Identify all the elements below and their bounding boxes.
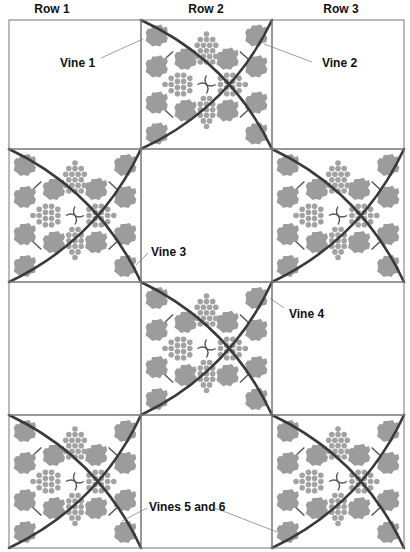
grape xyxy=(243,346,249,352)
grape xyxy=(318,485,324,491)
grape xyxy=(78,166,84,172)
grape xyxy=(341,244,347,250)
grape xyxy=(329,432,335,438)
grape xyxy=(86,213,92,219)
grape xyxy=(341,432,347,438)
grape xyxy=(338,171,344,177)
grape xyxy=(335,521,341,527)
grape xyxy=(92,469,98,475)
grape-leaf-icon xyxy=(146,55,168,77)
grape xyxy=(210,59,216,65)
grape xyxy=(49,222,55,228)
grape xyxy=(355,469,361,475)
grape xyxy=(69,515,75,521)
grape xyxy=(66,177,72,183)
grape xyxy=(181,85,187,91)
grape-leaf-icon xyxy=(277,186,299,208)
grape xyxy=(312,203,318,209)
leader-vine-3 xyxy=(136,253,148,265)
grape xyxy=(198,310,204,316)
grape xyxy=(187,88,193,94)
grape xyxy=(299,479,305,485)
grape xyxy=(207,118,213,124)
tendril xyxy=(66,480,75,482)
grape xyxy=(201,360,207,366)
grape xyxy=(78,188,84,194)
grape xyxy=(72,521,78,527)
grid-cell xyxy=(9,20,141,149)
grape xyxy=(82,449,88,455)
grape xyxy=(175,85,181,91)
grape xyxy=(306,216,312,222)
grape xyxy=(213,54,219,60)
grape xyxy=(338,183,344,189)
column-header-3: Row 3 xyxy=(323,2,359,16)
grape xyxy=(210,299,216,305)
grape-cluster-top xyxy=(326,160,350,194)
tendril xyxy=(207,349,216,351)
vine-tile xyxy=(141,20,272,149)
grape-leaf-icon xyxy=(85,497,107,519)
grape xyxy=(306,210,312,216)
grape xyxy=(341,510,347,516)
grape xyxy=(224,355,230,361)
grape xyxy=(293,213,299,219)
tendril xyxy=(198,347,207,349)
grape xyxy=(194,42,200,48)
grape xyxy=(210,48,216,54)
column-headers: Row 1 Row 2 Row 3 xyxy=(34,2,359,16)
grape xyxy=(207,316,213,322)
grape xyxy=(92,203,98,209)
grape xyxy=(335,426,341,432)
grape xyxy=(312,482,318,488)
grape xyxy=(111,479,117,485)
grape xyxy=(204,293,210,299)
grape xyxy=(181,91,187,97)
grape xyxy=(318,213,324,219)
grape xyxy=(187,346,193,352)
grape xyxy=(299,213,305,219)
grape xyxy=(69,249,75,255)
grape xyxy=(82,183,88,189)
grape xyxy=(78,454,84,460)
grape-cluster-top xyxy=(194,31,218,65)
grape xyxy=(43,476,49,482)
vine-tile xyxy=(141,282,272,415)
grape xyxy=(204,31,210,37)
grape xyxy=(201,96,207,102)
grape xyxy=(69,227,75,233)
grape xyxy=(198,365,204,371)
grape xyxy=(306,222,312,228)
grape xyxy=(92,488,98,494)
grape xyxy=(349,479,355,485)
grape-leaf-icon xyxy=(348,178,370,200)
grape xyxy=(204,113,210,119)
grid-cell xyxy=(141,149,272,282)
grape xyxy=(55,485,61,491)
grape xyxy=(335,160,341,166)
tendril xyxy=(75,216,84,218)
grape xyxy=(335,177,341,183)
grape-leaf-icon xyxy=(277,452,299,474)
grape xyxy=(49,488,55,494)
grape xyxy=(218,346,224,352)
grape xyxy=(36,207,42,213)
grape xyxy=(306,482,312,488)
grape xyxy=(105,213,111,219)
grape xyxy=(69,171,75,177)
grape xyxy=(75,437,81,443)
grape xyxy=(36,473,42,479)
grape xyxy=(175,343,181,349)
grape xyxy=(210,371,216,377)
leader-vine-2 xyxy=(264,44,312,62)
grape-leaf-icon xyxy=(216,99,238,121)
grape xyxy=(318,207,324,213)
grape-leaf-icon xyxy=(85,178,107,200)
grape xyxy=(78,177,84,183)
grape xyxy=(43,203,49,209)
grape xyxy=(329,443,335,449)
grape xyxy=(175,91,181,97)
grape-leaf-icon xyxy=(348,444,370,466)
grid-cell xyxy=(272,20,404,149)
grape xyxy=(63,171,69,177)
